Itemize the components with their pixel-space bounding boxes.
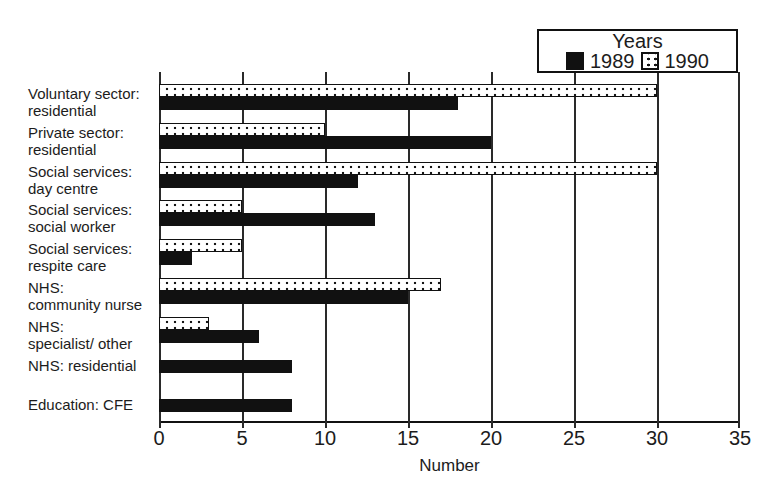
bar-1990-6 <box>159 278 441 291</box>
bar-1989-1 <box>159 97 458 110</box>
bar-1990-3 <box>159 162 657 175</box>
legend-swatch-1990-icon <box>641 52 659 70</box>
x-tick-label-0: 0 <box>134 428 184 448</box>
legend-items: 1989 1990 <box>566 51 709 71</box>
legend-title: Years <box>612 31 662 51</box>
category-label-line: Education: CFE <box>28 396 156 413</box>
x-tick-label-30: 30 <box>632 428 682 448</box>
category-label-line: NHS: <box>28 279 156 296</box>
bar-1989-7 <box>159 330 259 343</box>
category-label-6: NHS:community nurse <box>28 279 156 313</box>
x-tick-label-15: 15 <box>383 428 433 448</box>
bar-1989-4 <box>159 213 375 226</box>
category-label-line: community nurse <box>28 296 156 313</box>
legend-label-1989: 1989 <box>590 51 635 71</box>
legend: Years 1989 1990 <box>537 29 738 73</box>
category-label-line: Voluntary sector: <box>28 85 156 102</box>
category-label-5: Social services:respite care <box>28 240 156 274</box>
category-label-1: Voluntary sector:residential <box>28 85 156 119</box>
category-label-3: Social services:day centre <box>28 163 156 197</box>
bar-chart-figure: Years 1989 1990 Voluntary sector:residen… <box>0 0 780 496</box>
category-label-line: Private sector: <box>28 124 156 141</box>
gridline-25 <box>574 72 576 428</box>
category-label-line: Social services: <box>28 240 156 257</box>
category-axis-labels: Voluntary sector:residentialPrivate sect… <box>28 72 156 421</box>
bar-1989-3 <box>159 175 358 188</box>
gridline-10 <box>325 72 327 428</box>
gridline-20 <box>491 72 493 428</box>
bar-1990-4 <box>159 200 242 213</box>
category-label-8: NHS: residential <box>28 357 156 374</box>
legend-swatch-1989-icon <box>566 52 584 70</box>
x-tick-label-35: 35 <box>715 428 765 448</box>
gridline-15 <box>408 72 410 428</box>
category-label-2: Private sector:residential <box>28 124 156 158</box>
category-label-line: Social services: <box>28 163 156 180</box>
category-label-7: NHS:specialist/ other <box>28 318 156 352</box>
category-label-line: NHS: <box>28 318 156 335</box>
bar-1990-7 <box>159 317 209 330</box>
category-label-line: residential <box>28 141 156 158</box>
x-tick-label-20: 20 <box>466 428 516 448</box>
bar-1989-5 <box>159 252 192 265</box>
bar-1990-1 <box>159 84 657 97</box>
category-label-9: Education: CFE <box>28 396 156 413</box>
plot-area <box>159 72 740 423</box>
x-tick-label-25: 25 <box>549 428 599 448</box>
category-label-line: NHS: residential <box>28 357 156 374</box>
bar-1990-2 <box>159 123 325 136</box>
category-label-line: specialist/ other <box>28 335 156 352</box>
legend-label-1990: 1990 <box>665 51 710 71</box>
bar-1989-6 <box>159 291 408 304</box>
category-label-line: day centre <box>28 180 156 197</box>
gridline-35 <box>738 72 740 428</box>
category-label-line: social worker <box>28 218 156 235</box>
x-tick-label-10: 10 <box>300 428 350 448</box>
category-label-line: Social services: <box>28 201 156 218</box>
x-tick-label-5: 5 <box>217 428 267 448</box>
gridline-30 <box>657 72 659 428</box>
category-label-line: residential <box>28 102 156 119</box>
bar-1989-9 <box>159 399 292 412</box>
bar-1989-8 <box>159 360 292 373</box>
category-label-line: respite care <box>28 257 156 274</box>
bar-1990-5 <box>159 239 242 252</box>
x-axis-title: Number <box>159 456 740 475</box>
bar-1989-2 <box>159 136 491 149</box>
category-label-4: Social services:social worker <box>28 201 156 235</box>
